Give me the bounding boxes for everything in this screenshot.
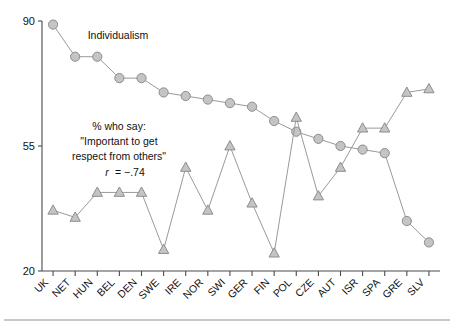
data-point-aut-s1 xyxy=(335,162,345,171)
x-label-swe: SWE xyxy=(136,276,161,301)
data-point-swe-s1 xyxy=(158,244,168,253)
data-point-den-s1 xyxy=(136,187,146,196)
respect-label-line-1: % who say: xyxy=(92,120,146,132)
y-axis-group: 90 55 20 xyxy=(23,15,42,277)
data-point-den-s0 xyxy=(137,74,146,83)
annotation-individualism: Individualism xyxy=(88,29,149,41)
x-label-hun: HUN xyxy=(70,276,95,301)
x-label-ger: GER xyxy=(225,276,250,301)
x-label-den: DEN xyxy=(115,276,139,300)
individualism-label: Individualism xyxy=(88,29,149,41)
y-tick-marks xyxy=(38,21,42,271)
data-point-hun-s1 xyxy=(92,187,102,196)
x-label-net: NET xyxy=(49,276,73,300)
x-tick-marks xyxy=(53,271,429,276)
data-point-spa-s1 xyxy=(380,123,390,132)
data-point-ger-s1 xyxy=(247,198,257,207)
x-label-fin: FIN xyxy=(251,276,271,296)
respect-label-line-3: respect from others" xyxy=(72,150,166,162)
chart-canvas: 90 55 20 UKNETHUNBELDENSWEIRENORSWIGERFI… xyxy=(0,0,454,329)
data-point-slv-s1 xyxy=(424,83,434,92)
x-label-aut: AUT xyxy=(315,276,339,300)
data-point-gre-s0 xyxy=(402,216,411,225)
x-label-spa: SPA xyxy=(359,276,382,299)
x-label-isr: ISR xyxy=(339,276,360,297)
x-label-ire: IRE xyxy=(162,276,183,297)
data-point-pol-s1 xyxy=(291,112,301,121)
data-point-uk-s0 xyxy=(48,20,57,29)
series-individualism xyxy=(48,20,433,247)
x-label-nor: NOR xyxy=(180,276,205,301)
x-category-labels: UKNETHUNBELDENSWEIRENORSWIGERFINPOLCZEAU… xyxy=(32,276,427,302)
individualism-markers xyxy=(48,20,433,247)
x-label-cze: CZE xyxy=(292,276,315,299)
data-point-hun-s0 xyxy=(93,52,102,61)
x-axis-group: UKNETHUNBELDENSWEIRENORSWIGERFINPOLCZEAU… xyxy=(32,271,440,301)
data-point-ger-s0 xyxy=(247,102,256,111)
annotation-respect: % who say: "Important to get respect fro… xyxy=(72,120,166,178)
x-label-uk: UK xyxy=(32,276,51,295)
data-point-bel-s0 xyxy=(115,74,124,83)
data-point-swi-s1 xyxy=(225,141,235,150)
data-point-uk-s1 xyxy=(48,205,58,214)
x-label-gre: GRE xyxy=(380,276,405,301)
y-tick-label-20: 20 xyxy=(23,265,35,277)
data-point-swi-s0 xyxy=(225,99,234,108)
data-point-aut-s0 xyxy=(336,141,345,150)
x-label-slv: SLV xyxy=(404,276,426,298)
data-point-ire-s1 xyxy=(181,162,191,171)
x-label-bel: BEL xyxy=(94,276,117,299)
data-point-ire-s0 xyxy=(181,91,190,100)
correlation-symbol: r xyxy=(105,166,109,178)
data-point-isr-s1 xyxy=(357,123,367,132)
figure-container: 90 55 20 UKNETHUNBELDENSWEIRENORSWIGERFI… xyxy=(0,0,454,329)
data-point-bel-s1 xyxy=(114,187,124,196)
respect-line xyxy=(53,89,429,253)
x-label-swi: SWI xyxy=(205,276,228,299)
data-point-fin-s0 xyxy=(270,116,279,125)
respect-label-line-2: "Important to get xyxy=(80,135,157,147)
x-label-pol: POL xyxy=(270,276,293,299)
data-point-cze-s0 xyxy=(314,134,323,143)
data-point-isr-s0 xyxy=(358,145,367,154)
y-tick-label-55: 55 xyxy=(23,140,35,152)
correlation-value: = −.74 xyxy=(115,166,145,178)
data-point-spa-s0 xyxy=(380,149,389,158)
data-point-nor-s1 xyxy=(203,205,213,214)
data-point-nor-s0 xyxy=(203,95,212,104)
data-point-swe-s0 xyxy=(159,88,168,97)
data-point-fin-s1 xyxy=(269,248,279,257)
individualism-line xyxy=(53,25,429,243)
data-point-slv-s0 xyxy=(424,238,433,247)
data-point-net-s0 xyxy=(71,52,80,61)
y-tick-label-90: 90 xyxy=(23,15,35,27)
